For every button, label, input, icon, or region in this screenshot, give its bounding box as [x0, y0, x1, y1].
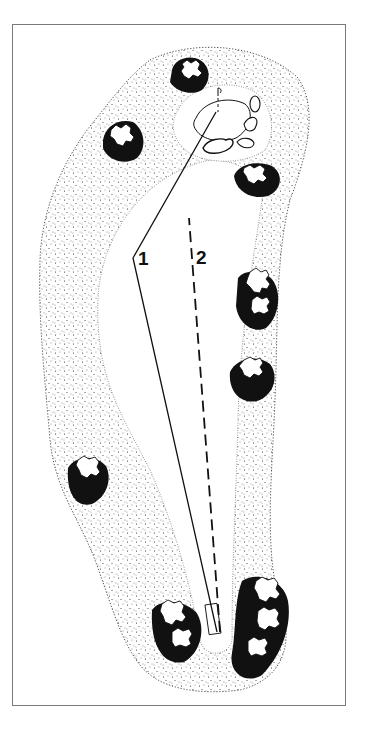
route-2-label: 2 — [196, 247, 207, 268]
golf-hole-diagram: 1 2 — [0, 0, 368, 729]
tree-cluster — [231, 577, 288, 679]
route-1-label: 1 — [138, 248, 149, 269]
bunker — [250, 96, 260, 112]
